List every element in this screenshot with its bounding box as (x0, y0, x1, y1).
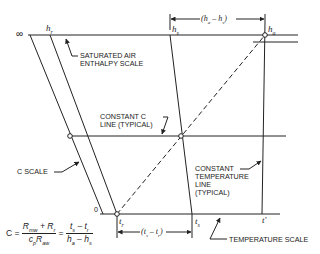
ha-label: ha (268, 25, 276, 37)
saturated-air-leader (66, 39, 78, 56)
nomograph-diagram (0, 0, 320, 254)
dim-top-label: (ha – hs) (201, 15, 227, 27)
hs-label: hs (172, 25, 179, 37)
constant-c-callout: CONSTANT C LINE (TYPICAL) (100, 113, 153, 129)
constant-c-leader (162, 117, 168, 134)
hs-ts-line (170, 35, 192, 214)
tprime-label: t' (262, 216, 266, 224)
point-c (68, 134, 73, 139)
equation-fraction-2: ts – tr ha – hs (66, 221, 93, 245)
tr-label: tr (119, 217, 124, 229)
zero-label: 0 (94, 206, 98, 214)
hr-label: hr (46, 24, 53, 36)
ha-tprime-line (262, 22, 265, 214)
temperature-scale-callout: TEMPERATURE SCALE (229, 236, 308, 244)
equation-fraction-1: Rmw + Rr cpRaw (22, 221, 56, 245)
dim-bottom-label: (ts – tr) (141, 228, 163, 240)
saturated-air-callout: SATURATED AIR ENTHALPY SCALE (80, 52, 143, 68)
point-intersection (179, 134, 184, 139)
c-scale-callout: C SCALE (17, 168, 48, 176)
temperature-scale-leader (210, 218, 227, 239)
point-ha (263, 33, 268, 38)
c-equation: C = Rmw + Rr cpRaw = ts – tr ha – hs (6, 221, 93, 245)
constant-temperature-callout: CONSTANT TEMPERATURE LINE (TYPICAL) (195, 165, 249, 197)
c-scale-leader (54, 162, 79, 172)
infinity-label: ∞ (16, 30, 23, 38)
ts-label: ts (195, 217, 200, 229)
